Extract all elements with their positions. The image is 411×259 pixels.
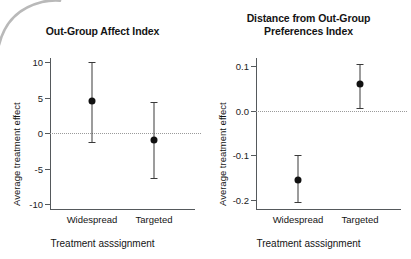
y-tick-label-right: 0.1 bbox=[236, 61, 249, 72]
data-point-targeted-right[interactable] bbox=[357, 80, 364, 87]
y-axis-label-left: Average treatment effect bbox=[11, 102, 22, 206]
error-bar-cap-upper-widespread-right bbox=[295, 155, 302, 156]
y-tick-label-left: 0 bbox=[38, 128, 43, 139]
panel-title-left: Out-Group Affect Index bbox=[0, 25, 205, 38]
error-bar-cap-lower-widespread-left bbox=[89, 142, 96, 143]
x-axis-label-right: Treatment asssignment bbox=[206, 238, 411, 249]
panel-title-right-line2: Preferences Index bbox=[264, 25, 353, 37]
zero-reference-line-left bbox=[50, 133, 201, 134]
y-tick-left bbox=[45, 204, 50, 205]
figure-two-panel-treatment-effects: Out-Group Affect Index Average treatment… bbox=[0, 0, 411, 259]
error-bar-cap-upper-targeted-left bbox=[151, 102, 158, 103]
y-tick-left bbox=[45, 98, 50, 99]
x-tick-label-widespread-right: Widespread bbox=[273, 214, 324, 225]
x-axis-spine-right bbox=[256, 209, 401, 210]
y-tick-right bbox=[251, 66, 256, 67]
zero-reference-line-right bbox=[256, 111, 407, 112]
y-tick-label-right: 0.0 bbox=[236, 105, 249, 116]
y-tick-left bbox=[45, 62, 50, 63]
plot-area-left: 10 5 0 -5 -10 bbox=[50, 58, 195, 210]
y-tick-label-right: -0.1 bbox=[233, 150, 249, 161]
x-tick-label-targeted-left: Targeted bbox=[136, 214, 173, 225]
y-tick-label-right: -0.2 bbox=[233, 195, 249, 206]
data-point-widespread-left[interactable] bbox=[89, 98, 96, 105]
error-bar-cap-lower-widespread-right bbox=[295, 202, 302, 203]
x-axis-label-left: Treatment asssignment bbox=[0, 238, 205, 249]
panel-title-right-line1: Distance from Out-Group bbox=[247, 12, 371, 24]
y-axis-label-right: Average treatment effect bbox=[217, 102, 228, 206]
y-tick-label-left: -5 bbox=[35, 163, 43, 174]
y-tick-right bbox=[251, 155, 256, 156]
panel-distance-from-out-group-preferences-index: Distance from Out-Group Preferences Inde… bbox=[206, 0, 411, 259]
x-tick-label-targeted-right: Targeted bbox=[342, 214, 379, 225]
data-point-widespread-right[interactable] bbox=[295, 176, 302, 183]
y-tick-left bbox=[45, 169, 50, 170]
error-bar-cap-upper-widespread-left bbox=[89, 62, 96, 63]
plot-area-right: 0.1 0.0 -0.1 -0.2 bbox=[256, 58, 401, 210]
y-tick-label-left: -10 bbox=[29, 199, 43, 210]
y-axis-spine-right bbox=[256, 58, 257, 210]
y-tick-label-left: 5 bbox=[38, 92, 43, 103]
error-bar-cap-upper-targeted-right bbox=[357, 64, 364, 65]
error-bar-cap-lower-targeted-left bbox=[151, 178, 158, 179]
panel-out-group-affect-index: Out-Group Affect Index Average treatment… bbox=[0, 0, 205, 259]
y-tick-label-left: 10 bbox=[32, 57, 43, 68]
x-axis-spine-left bbox=[50, 209, 195, 210]
panel-title-right: Distance from Out-Group Preferences Inde… bbox=[206, 12, 411, 37]
x-tick-label-widespread-left: Widespread bbox=[67, 214, 118, 225]
error-bar-cap-lower-targeted-right bbox=[357, 108, 364, 109]
data-point-targeted-left[interactable] bbox=[151, 136, 158, 143]
y-tick-right bbox=[251, 200, 256, 201]
